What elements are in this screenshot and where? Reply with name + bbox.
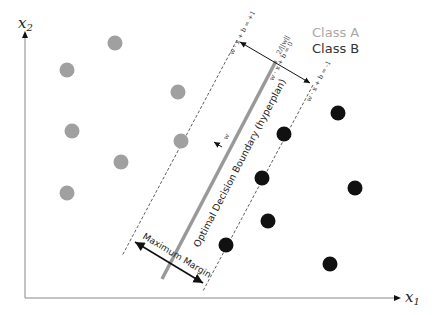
- normal-vector-arrow: [214, 142, 222, 147]
- y-axis-label: x2: [18, 14, 33, 33]
- class-a-point: [60, 186, 75, 201]
- x-axis-label: x1: [405, 288, 420, 307]
- equation-minus-one: w · x + b = -1: [305, 59, 333, 103]
- class-a-point: [114, 155, 129, 170]
- class-a-points: [60, 36, 189, 201]
- normal-vector-label: w: [222, 132, 232, 141]
- class-a-point: [171, 85, 186, 100]
- svm-diagram: x2 x1 Class A Class B w · x + b = +1 w ·…: [0, 0, 434, 315]
- class-b-point: [255, 171, 270, 186]
- class-a-point: [65, 124, 80, 139]
- legend-class-a: Class A: [312, 25, 359, 40]
- x-axis-arrow-icon: [394, 295, 401, 301]
- legend: Class A Class B: [312, 25, 359, 56]
- class-b-point: [348, 181, 363, 196]
- class-b-point: [277, 127, 292, 142]
- class-a-point: [60, 63, 75, 78]
- class-b-point: [323, 257, 338, 272]
- legend-class-b: Class B: [312, 41, 359, 56]
- class-b-point: [219, 238, 234, 253]
- class-a-point: [174, 134, 189, 149]
- class-a-point: [108, 36, 123, 51]
- class-b-point: [261, 214, 276, 229]
- class-b-point: [331, 106, 346, 121]
- axes: x2 x1: [18, 14, 420, 307]
